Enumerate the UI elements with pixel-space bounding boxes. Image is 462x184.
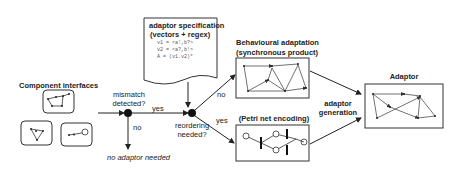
adaptor-title: Adaptor	[365, 72, 443, 81]
component-interfaces-title: Component interfaces	[19, 81, 98, 90]
petri-net-box	[236, 125, 309, 161]
mismatch-label-line2: detected?	[112, 99, 146, 108]
reordering-label-line2: needed?	[169, 130, 215, 139]
component-box-3	[61, 123, 92, 146]
adaptor-box	[365, 84, 443, 128]
behavioural-box	[236, 58, 309, 98]
behavioural-title-line1: Behavioural adaptation	[236, 38, 316, 47]
reordering-label-line1: reordering	[169, 121, 215, 130]
no-reorder-arrow	[195, 75, 235, 110]
reordering-decision-node	[188, 109, 196, 117]
component-box-2	[21, 121, 52, 145]
no-adaptor-label: no adaptor needed	[107, 153, 170, 162]
mismatch-label-line1: mismatch	[112, 90, 146, 99]
diagram-canvas	[0, 0, 462, 184]
reordering-no-label: no	[217, 90, 225, 99]
spec-title-line1: adaptor specification	[149, 21, 224, 30]
spec-line-1: v1 = <a!,b?>	[157, 40, 193, 47]
mismatch-label: mismatch detected?	[112, 90, 146, 108]
reordering-label: reordering needed?	[169, 121, 215, 139]
reordering-yes-label: yes	[216, 116, 228, 125]
mismatch-yes-label: yes	[152, 104, 164, 113]
petri-title: (Petri net encoding)	[236, 114, 312, 123]
generation-label: adaptor generation	[318, 99, 358, 117]
component-box-1	[43, 90, 74, 113]
generation-label-line2: generation	[318, 108, 358, 117]
petri-to-adaptor-arrow	[310, 118, 361, 144]
spec-line-2: v2 = <a?,b!>	[157, 47, 193, 54]
generation-label-line1: adaptor	[318, 99, 358, 108]
spec-line-3: A = (v1.v2)*	[157, 54, 193, 61]
mismatch-decision-node	[124, 109, 132, 117]
spec-title-line2: (vectors + regex)	[150, 30, 210, 39]
mismatch-no-label: no	[133, 123, 141, 132]
behavioural-title-line2: (synchronous product)	[236, 48, 316, 57]
behavioural-to-adaptor-arrow	[310, 71, 361, 94]
